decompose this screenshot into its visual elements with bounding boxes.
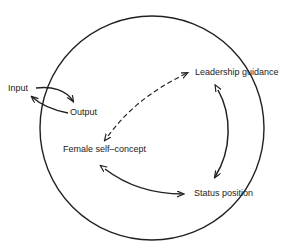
input-to-output-arrow [36, 88, 73, 101]
node-leadership-guidance: Leadership guidance [195, 68, 279, 77]
leadership-status-arrow [215, 90, 228, 177]
output-to-input-arrow [32, 97, 68, 113]
diagram-graphics [0, 0, 290, 249]
self-concept-status-arrow [105, 169, 183, 194]
node-output: Output [70, 108, 97, 117]
system-diagram: Input Output Leadership guidance Female … [0, 0, 290, 249]
self-concept-leadership-dashed-arrow [108, 73, 187, 136]
node-status-position: Status position [194, 189, 253, 198]
system-boundary-circle [40, 16, 264, 240]
node-input: Input [8, 84, 28, 93]
node-female-self-concept: Female self–concept [63, 145, 146, 154]
